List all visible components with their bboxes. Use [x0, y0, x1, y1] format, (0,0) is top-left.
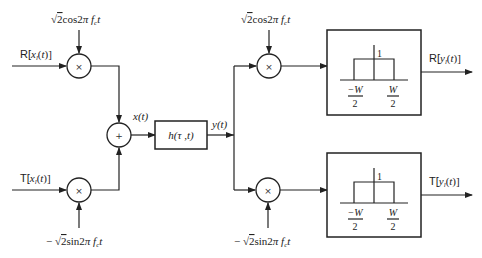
tx-imag-to-adder — [91, 148, 119, 190]
tx-cos-carrier-label: √2cos2π fct — [51, 13, 101, 27]
multiply-icon: × — [265, 62, 273, 72]
rx-sin-carrier-label: − √2sin2π fct — [234, 235, 291, 249]
baseband-passband-diagram: R[xl(t)] × √2cos2π fct T[xl(t)] × − √2si… — [0, 0, 482, 258]
multiply-icon: × — [75, 62, 83, 72]
adder-channel: + x(t) h(τ ,t) y(t) — [107, 66, 234, 190]
right-cutoff-den: 2 — [391, 98, 396, 109]
tx-real-branch: R[xl(t)] × √2cos2π fct — [12, 13, 119, 122]
tx-real-to-adder — [91, 66, 119, 122]
tx-imag-branch: T[xl(t)] × − √2sin2π fct — [12, 148, 119, 249]
rx-cos-carrier-label: √2cos2π fct — [241, 13, 291, 27]
y-signal-label: y(t) — [211, 118, 228, 131]
add-icon: + — [115, 131, 123, 141]
y-signal-arrowhead — [226, 132, 234, 138]
right-cutoff-den: 2 — [391, 221, 396, 232]
multiply-icon: × — [264, 186, 272, 196]
output-imag-label: T[yl(t)] — [429, 175, 460, 189]
multiply-icon: × — [75, 186, 83, 196]
left-cutoff-den: 2 — [353, 98, 358, 109]
rx-imag-branch: × − √2sin2π fct 1 −W 2 W 2 T[yl(t)] — [234, 153, 472, 249]
filter-gain-label: 1 — [377, 48, 382, 59]
left-cutoff-num: −W — [347, 84, 364, 95]
channel-label: h(τ ,t) — [168, 129, 194, 142]
output-real-label: R[yl(t)] — [429, 52, 461, 66]
left-cutoff-den: 2 — [353, 221, 358, 232]
input-imag-label: T[xl(t)] — [20, 172, 51, 186]
rx-real-branch: × √2cos2π fct 1 −W 2 W 2 R[yl(t)] — [234, 13, 472, 115]
x-signal-label: x(t) — [132, 110, 149, 123]
tx-sin-carrier-label: − √2sin2π fct — [46, 235, 103, 249]
input-real-label: R[xl(t)] — [20, 48, 52, 62]
filter-gain-label: 1 — [377, 171, 382, 182]
left-cutoff-num: −W — [347, 207, 364, 218]
